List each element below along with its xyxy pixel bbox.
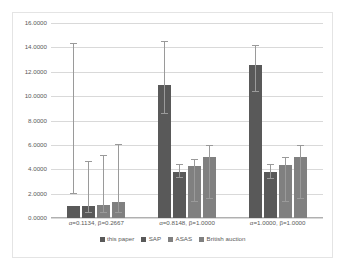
bar-slot bbox=[82, 23, 95, 218]
legend-entry[interactable]: ASAS bbox=[168, 236, 192, 242]
error-bar bbox=[270, 165, 271, 179]
error-bar bbox=[194, 160, 195, 203]
bar-slot bbox=[188, 23, 201, 218]
legend-label: British auction bbox=[207, 236, 246, 242]
bar-slot bbox=[67, 23, 80, 218]
error-bar-cap-top bbox=[70, 43, 77, 44]
error-bar bbox=[73, 44, 74, 195]
error-bar bbox=[118, 145, 119, 212]
error-bar-cap-top bbox=[267, 164, 274, 165]
bar-slot bbox=[203, 23, 216, 218]
error-bar-cap-top bbox=[282, 157, 289, 158]
bar-slot bbox=[97, 23, 110, 218]
error-bar-cap-bottom bbox=[115, 212, 122, 213]
y-axis-tick-label: 6.0000 bbox=[28, 142, 47, 148]
legend-swatch-icon bbox=[141, 237, 146, 242]
x-axis-category-label: α=0.1134, β=0.2667 bbox=[51, 220, 142, 226]
y-axis-tick-label: 12.0000 bbox=[25, 69, 47, 75]
bar-slot bbox=[294, 23, 307, 218]
bar-group bbox=[142, 23, 233, 218]
x-axis-category-labels: α=0.1134, β=0.2667α=0.8148, β=1.0000α=1.… bbox=[51, 220, 323, 226]
error-bar bbox=[164, 42, 165, 114]
chart-container: 16.000014.000012.000010.00008.00006.0000… bbox=[12, 12, 333, 258]
y-axis-tick-label: 8.0000 bbox=[28, 117, 47, 123]
x-axis-category-label: α=0.8148, β=1.0000 bbox=[142, 220, 233, 226]
error-bar-cap-top bbox=[100, 155, 107, 156]
bar-slot bbox=[158, 23, 171, 218]
legend-swatch-icon bbox=[100, 237, 105, 242]
bar-groups bbox=[51, 23, 323, 218]
legend-label: SAP bbox=[149, 236, 161, 242]
error-bar-cap-top bbox=[297, 145, 304, 146]
chart-legend: this paperSAPASASBritish auction bbox=[13, 236, 332, 242]
y-axis-tick-label: 4.0000 bbox=[28, 166, 47, 172]
error-bar-cap-top bbox=[206, 145, 213, 146]
error-bar-cap-bottom bbox=[297, 198, 304, 199]
bar-slot bbox=[173, 23, 186, 218]
legend-entry[interactable]: SAP bbox=[141, 236, 161, 242]
error-bar-cap-bottom bbox=[252, 91, 259, 92]
error-bar-cap-bottom bbox=[176, 177, 183, 178]
bar-slot bbox=[264, 23, 277, 218]
y-axis-tick-label: 0.0000 bbox=[28, 215, 47, 221]
error-bar-cap-bottom bbox=[191, 201, 198, 202]
error-bar bbox=[103, 156, 104, 213]
y-axis-tick-label: 14.0000 bbox=[25, 44, 47, 50]
y-axis: 16.000014.000012.000010.00008.00006.0000… bbox=[13, 23, 47, 218]
y-axis-tick-label: 16.0000 bbox=[25, 20, 47, 26]
bar-slot bbox=[112, 23, 125, 218]
bar[interactable] bbox=[67, 206, 80, 218]
error-bar bbox=[300, 146, 301, 198]
error-bar-cap-bottom bbox=[282, 201, 289, 202]
legend-label: this paper bbox=[107, 236, 134, 242]
error-bar bbox=[209, 146, 210, 198]
error-bar-cap-bottom bbox=[206, 198, 213, 199]
error-bar-cap-top bbox=[115, 144, 122, 145]
legend-entry[interactable]: this paper bbox=[100, 236, 135, 242]
error-bar-cap-bottom bbox=[100, 212, 107, 213]
error-bar-cap-top bbox=[161, 41, 168, 42]
error-bar-cap-bottom bbox=[161, 113, 168, 114]
bar[interactable] bbox=[173, 172, 186, 218]
x-axis-category-label: α=1.0000, β=1.0000 bbox=[232, 220, 323, 226]
plot-area bbox=[51, 23, 323, 218]
error-bar bbox=[179, 165, 180, 178]
bar-slot bbox=[249, 23, 262, 218]
legend-swatch-icon bbox=[168, 237, 173, 242]
y-axis-tick-label: 2.0000 bbox=[28, 191, 47, 197]
y-axis-tick-label: 10.0000 bbox=[25, 93, 47, 99]
bar-slot bbox=[279, 23, 292, 218]
error-bar bbox=[285, 158, 286, 202]
error-bar-cap-top bbox=[85, 161, 92, 162]
error-bar-cap-top bbox=[191, 159, 198, 160]
bar-group bbox=[51, 23, 142, 218]
legend-entry[interactable]: British auction bbox=[199, 236, 245, 242]
legend-label: ASAS bbox=[176, 236, 193, 242]
error-bar-cap-bottom bbox=[70, 193, 77, 194]
error-bar bbox=[88, 162, 89, 213]
error-bar-cap-top bbox=[252, 45, 259, 46]
error-bar bbox=[255, 46, 256, 92]
bar-group bbox=[232, 23, 323, 218]
error-bar-cap-top bbox=[176, 164, 183, 165]
legend-swatch-icon bbox=[199, 237, 204, 242]
error-bar-cap-bottom bbox=[85, 212, 92, 213]
error-bar-cap-bottom bbox=[267, 178, 274, 179]
